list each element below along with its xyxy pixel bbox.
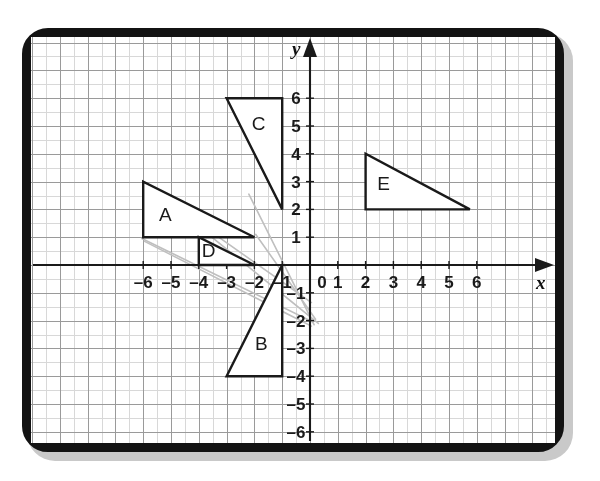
x-tick-label-5: 5 bbox=[444, 274, 453, 291]
x-axis-arrowhead bbox=[535, 258, 554, 272]
y-tick-label-3: 3 bbox=[291, 173, 300, 190]
triangle-label-B: B bbox=[255, 333, 268, 352]
x-tick-label--5: –5 bbox=[162, 274, 181, 291]
x-tick-label-4: 4 bbox=[416, 274, 425, 291]
x-tick-label--6: –6 bbox=[134, 274, 153, 291]
x-tick-label-6: 6 bbox=[472, 274, 481, 291]
y-tick-label--1: –1 bbox=[287, 284, 306, 301]
origin-label: 0 bbox=[317, 274, 326, 291]
x-tick-label--3: –3 bbox=[217, 274, 236, 291]
y-tick-label--4: –4 bbox=[287, 368, 306, 385]
y-tick-label--6: –6 bbox=[287, 423, 306, 440]
y-tick-label--5: –5 bbox=[287, 396, 306, 413]
coordinate-plane: –6–5–4–3–2–1123456654321–1–2–3–4–5–60xyA… bbox=[31, 37, 555, 443]
figure-page: –6–5–4–3–2–1123456654321–1–2–3–4–5–60xyA… bbox=[0, 0, 600, 481]
y-axis-label: y bbox=[292, 39, 300, 58]
triangle-label-C: C bbox=[252, 114, 266, 133]
y-tick-label-5: 5 bbox=[291, 118, 300, 135]
y-tick-label--2: –2 bbox=[287, 312, 306, 329]
y-tick-label-2: 2 bbox=[291, 201, 300, 218]
y-tick-label--3: –3 bbox=[287, 340, 306, 357]
triangle-label-A: A bbox=[159, 204, 172, 223]
y-tick-label-4: 4 bbox=[291, 145, 300, 162]
y-tick-label-1: 1 bbox=[291, 229, 300, 246]
y-axis-arrowhead bbox=[303, 38, 317, 57]
y-tick-label-6: 6 bbox=[291, 90, 300, 107]
x-axis-label: x bbox=[536, 273, 546, 292]
x-tick-label-3: 3 bbox=[389, 274, 398, 291]
triangle-label-D: D bbox=[202, 240, 216, 259]
x-tick-label--4: –4 bbox=[189, 274, 208, 291]
x-tick-label-2: 2 bbox=[361, 274, 370, 291]
x-tick-label-1: 1 bbox=[333, 274, 342, 291]
x-tick-label--2: –2 bbox=[245, 274, 264, 291]
triangle-label-E: E bbox=[377, 173, 390, 192]
